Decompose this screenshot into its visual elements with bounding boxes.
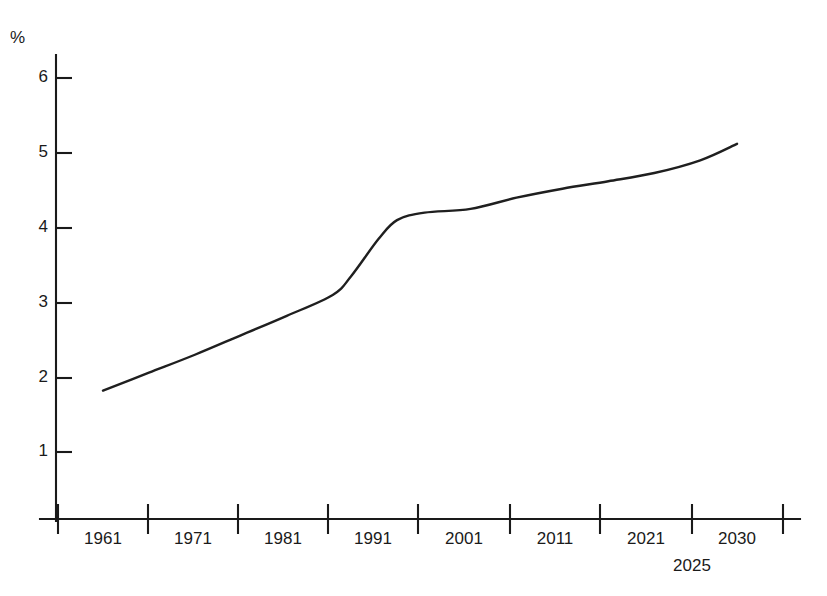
- x-tick-label-1991: 1991: [328, 529, 418, 549]
- x-tick-label-2011: 2011: [510, 529, 600, 549]
- x-tick-label-2025: 2025: [647, 556, 737, 576]
- y-tick-label-3: 3: [18, 292, 48, 312]
- x-tick-label-1981: 1981: [238, 529, 328, 549]
- chart-plot-area: [0, 0, 827, 596]
- x-tick-label-1961: 1961: [58, 529, 148, 549]
- y-tick-label-5: 5: [18, 142, 48, 162]
- y-tick-label-1: 1: [18, 441, 48, 461]
- x-tick-label-1971: 1971: [148, 529, 238, 549]
- y-tick-label-4: 4: [18, 217, 48, 237]
- data-series-line: [103, 144, 737, 391]
- x-tick-label-2001: 2001: [419, 529, 509, 549]
- x-tick-label-2021: 2021: [601, 529, 691, 549]
- chart-container: % 6 5 4 3 2: [0, 0, 827, 596]
- y-tick-label-2: 2: [18, 367, 48, 387]
- y-tick-label-6: 6: [18, 67, 48, 87]
- y-axis-ticks: [56, 78, 72, 452]
- x-tick-label-2030: 2030: [692, 529, 782, 549]
